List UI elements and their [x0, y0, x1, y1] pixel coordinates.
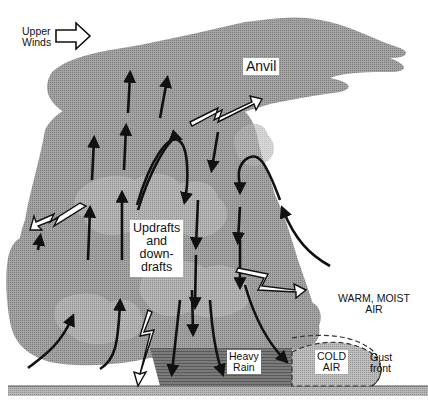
warm-moist-air-label: WARM, MOIST AIR [338, 293, 410, 315]
upper-winds-arrow [56, 23, 90, 49]
diagram-graphic [0, 0, 428, 401]
gust-front-line2: front [370, 363, 392, 374]
heavy-rain-line2: Rain [229, 362, 259, 373]
gust-front-label: Gust front [370, 352, 392, 374]
updrafts-line4: drafts [133, 261, 180, 274]
cold-air-label: COLD AIR [315, 350, 348, 374]
updrafts-label: Updrafts and down- drafts [130, 220, 183, 277]
warm-moist-line2: AIR [338, 304, 410, 315]
upper-winds-label: Upper Winds [22, 26, 51, 48]
thunderstorm-diagram: Upper Winds Anvil Updrafts and down- dra… [0, 0, 428, 401]
ground [8, 386, 428, 396]
anvil-label: Anvil [243, 58, 279, 75]
heavy-rain-label: Heavy Rain [227, 350, 261, 374]
upper-winds-line2: Winds [22, 37, 51, 48]
cold-air-line2: AIR [317, 362, 346, 373]
